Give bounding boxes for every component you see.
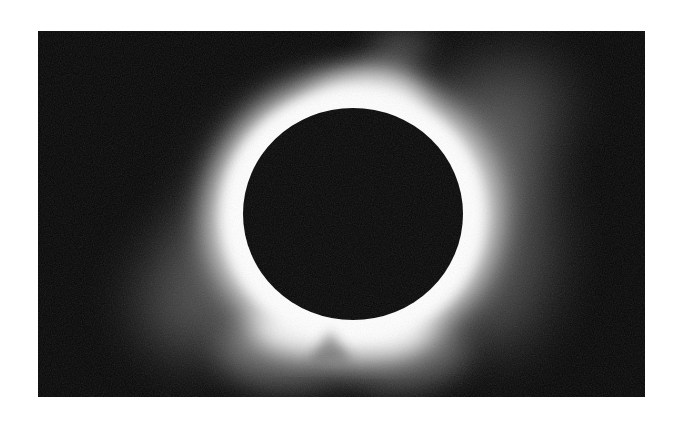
eclipse-illustration: [38, 31, 645, 397]
film-grain: [38, 31, 645, 397]
eclipse-photo: [38, 31, 645, 397]
